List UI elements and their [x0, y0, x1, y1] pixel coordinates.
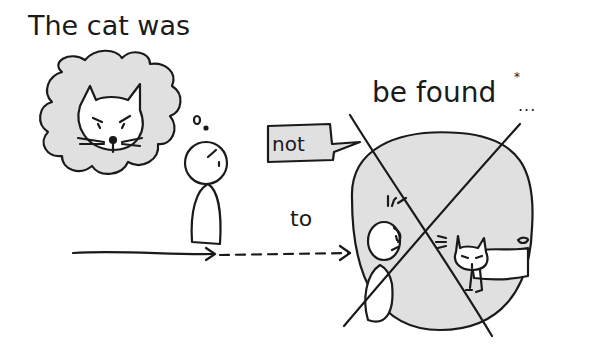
- drawing: [0, 0, 598, 357]
- caption-the-cat-was: The cat was: [28, 10, 190, 41]
- solid-arrow: [73, 252, 214, 254]
- ellipsis: ...: [518, 96, 536, 115]
- callout-not: not: [272, 132, 305, 156]
- asterisk-icon: *: [514, 70, 520, 84]
- illustration: The cat was be found * ... to not: [0, 0, 598, 357]
- dashed-arrow: [220, 253, 350, 255]
- caption-to: to: [290, 206, 312, 231]
- caption-be-found: be found: [372, 76, 496, 109]
- person-figure: [185, 142, 227, 244]
